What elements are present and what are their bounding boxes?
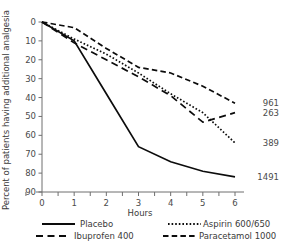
chart-figure: 0102030405060708090 0123456 149138926396… [0,0,283,244]
x-axis-title: Hours [128,208,153,218]
series-line-paracetamol-1000 [42,22,235,103]
y-tick-label: 60 [25,130,36,140]
y-tick-label: 20 [25,55,36,65]
y-axis: 0102030405060708090 [25,17,42,197]
end-label-961: 961 [263,98,279,108]
series-end-labels: 1491389263961 [257,98,279,182]
y-tick-label: 30 [25,74,36,84]
legend-label-placebo: Placebo [80,219,113,229]
x-tick-label: 4 [168,198,173,208]
line-chart-canvas: 0102030405060708090 0123456 149138926396… [0,0,283,244]
x-tick-label: 1 [71,198,76,208]
legend-label-paracetamol-1000: Paracetamol 1000 [199,231,276,241]
y-tick-label: 80 [25,168,36,178]
y-tick-label: 10 [25,36,36,46]
y-tick-label: 40 [25,93,36,103]
x-tick-label: 2 [104,198,109,208]
x-tick-label: 3 [136,198,141,208]
x-tick-label: 6 [232,198,237,208]
y-tick-label: 0 [31,17,36,27]
y-tick-label: 50 [25,111,36,121]
x-axis: 0123456 [26,192,244,208]
end-label-389: 389 [263,138,279,148]
series-line-placebo [42,22,235,177]
series-line-aspirin-600-650 [42,22,235,143]
chart-legend: PlaceboAspirin 600/650Ibuprofen 400Parac… [36,219,276,241]
x-tick-label: 0 [39,198,44,208]
y-tick-label: 90 [25,187,36,197]
y-axis-title: Percent of patients having additional an… [1,10,11,210]
legend-label-ibuprofen-400: Ibuprofen 400 [74,231,134,241]
x-tick-label: 5 [200,198,205,208]
y-tick-label: 70 [25,149,36,159]
legend-label-aspirin-600-650: Aspirin 600/650 [203,219,270,229]
end-label-263: 263 [263,108,279,118]
series-lines [42,22,235,177]
end-label-1491: 1491 [257,172,279,182]
